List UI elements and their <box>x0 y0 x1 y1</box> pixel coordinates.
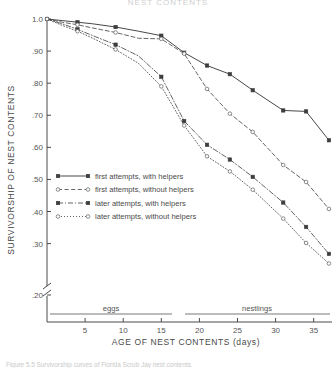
data-point-marker <box>205 64 208 67</box>
data-point-marker <box>86 174 89 177</box>
legend-item-label: first attempts, with helpers <box>95 172 183 181</box>
chart-legend: first attempts, with helpersfirst attemp… <box>56 172 196 222</box>
data-point-marker <box>251 175 254 178</box>
data-point-marker <box>56 215 60 219</box>
y-tick-label: .90 <box>32 47 44 56</box>
x-tick-label: 15 <box>157 326 166 335</box>
legend-item-3[interactable]: later attempts, without helpers <box>56 212 196 221</box>
y-tick-labels: 1.0.90.80.70.60.50.40.30.20 <box>32 15 44 300</box>
x-axis-title: AGE OF NEST CONTENTS (days) <box>112 337 260 347</box>
x-tick-label: 35 <box>309 326 318 335</box>
figure-caption: Figure 5.5 Survivorship curves of Florid… <box>6 361 330 368</box>
legend-item-0[interactable]: first attempts, with helpers <box>56 172 183 181</box>
x-tick-label: 5 <box>83 326 88 335</box>
data-point-marker <box>327 139 330 142</box>
data-point-marker <box>160 85 164 89</box>
data-point-marker <box>282 109 285 112</box>
y-tick-label: .30 <box>32 240 44 249</box>
y-tick-label: .60 <box>32 143 44 152</box>
series-1 <box>45 17 331 211</box>
data-point-marker <box>327 207 331 211</box>
series-layer <box>45 17 331 265</box>
data-point-marker <box>228 112 232 116</box>
y-tick-label: .70 <box>32 111 44 120</box>
data-point-marker <box>327 262 331 266</box>
data-point-marker <box>56 188 60 192</box>
x-tick-label: 30 <box>271 326 280 335</box>
data-point-marker <box>228 170 232 174</box>
data-point-marker <box>114 25 117 28</box>
data-point-marker <box>205 143 208 146</box>
data-point-marker <box>114 48 118 52</box>
data-point-marker <box>327 252 330 255</box>
data-point-marker <box>251 188 255 192</box>
data-point-marker <box>281 217 285 221</box>
y-axis-title: SURVIVORSHIP OF NEST CONTENTS <box>6 85 16 254</box>
legend-item-label: first attempts, without helpers <box>95 185 194 194</box>
x-tick-label: 25 <box>233 326 242 335</box>
data-point-marker <box>86 201 89 204</box>
x-tick-marks <box>85 318 314 322</box>
y-tick-marks <box>47 19 51 295</box>
x-axis: 5101520253035 AGE OF NEST CONTENTS (days… <box>47 318 332 347</box>
x-tick-labels: 5101520253035 <box>83 326 319 335</box>
data-point-marker <box>304 241 308 245</box>
data-point-marker <box>114 31 118 35</box>
data-point-marker <box>304 225 307 228</box>
x-tick-label: 20 <box>195 326 204 335</box>
legend-item-1[interactable]: first attempts, without helpers <box>56 185 194 194</box>
data-point-marker <box>304 180 308 184</box>
y-tick-label: .50 <box>32 175 44 184</box>
data-point-marker <box>228 72 231 75</box>
data-point-marker <box>281 163 285 167</box>
y-tick-label: .20 <box>32 291 44 300</box>
series-line <box>47 19 329 140</box>
series-line <box>47 19 329 209</box>
data-point-marker <box>304 110 307 113</box>
data-point-marker <box>251 130 255 134</box>
data-point-marker <box>228 158 231 161</box>
survivorship-chart: NEST CONTENTS 1.0.90.80.70.60.50.40.30.2… <box>0 0 336 370</box>
data-point-marker <box>160 37 164 41</box>
series-0 <box>45 17 330 142</box>
legend-item-2[interactable]: later attempts, with helpers <box>56 199 186 208</box>
data-point-marker <box>182 52 186 56</box>
eggs-band-label: eggs <box>103 304 120 313</box>
nestlings-band-label: nestlings <box>242 304 272 313</box>
stage-bands: eggs nestlings <box>50 304 330 314</box>
data-point-marker <box>205 87 209 91</box>
chart-title: NEST CONTENTS <box>128 0 208 7</box>
data-point-marker <box>56 201 59 204</box>
data-point-marker <box>76 23 80 27</box>
data-point-marker <box>251 89 254 92</box>
y-tick-label: .80 <box>32 79 44 88</box>
series-line <box>47 19 329 263</box>
data-point-marker <box>76 29 80 33</box>
data-point-marker <box>86 215 90 219</box>
data-point-marker <box>205 155 209 159</box>
x-tick-label: 10 <box>119 326 128 335</box>
figure-container: NEST CONTENTS 1.0.90.80.70.60.50.40.30.2… <box>0 0 336 370</box>
data-point-marker <box>114 43 117 46</box>
legend-item-label: later attempts, with helpers <box>95 199 186 208</box>
data-point-marker <box>160 75 163 78</box>
legend-item-label: later attempts, without helpers <box>95 212 197 221</box>
data-point-marker <box>45 17 49 21</box>
data-point-marker <box>56 174 59 177</box>
data-point-marker <box>182 119 185 122</box>
y-tick-label: 1.0 <box>32 15 44 24</box>
data-point-marker <box>86 188 90 192</box>
data-point-marker <box>282 201 285 204</box>
y-tick-label: .40 <box>32 208 44 217</box>
y-axis: 1.0.90.80.70.60.50.40.30.20 SURVIVORSHIP… <box>6 15 51 322</box>
data-point-marker <box>182 124 186 128</box>
